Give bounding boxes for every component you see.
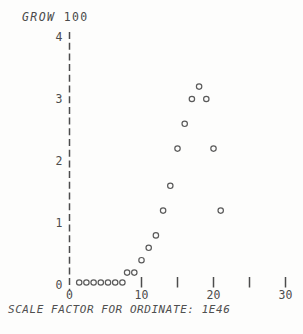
y-tick-label: 2 <box>56 154 63 168</box>
data-point <box>113 280 118 285</box>
plot-printout: GROW 100 012340102030 SCALE FACTOR FOR O… <box>0 0 303 334</box>
data-point <box>168 183 173 188</box>
data-point <box>175 146 180 151</box>
data-point <box>204 96 209 101</box>
data-point <box>84 280 89 285</box>
y-tick-label: 3 <box>56 92 63 106</box>
data-point <box>160 208 165 213</box>
data-point <box>98 280 103 285</box>
data-point <box>153 233 158 238</box>
data-point <box>218 208 223 213</box>
data-point <box>77 280 82 285</box>
data-point <box>124 270 129 275</box>
y-tick-label: 4 <box>56 30 63 44</box>
x-tick-label: 0 <box>66 288 73 302</box>
data-point <box>182 121 187 126</box>
data-point <box>132 270 137 275</box>
data-point <box>211 146 216 151</box>
data-point <box>105 280 110 285</box>
data-point <box>91 280 96 285</box>
data-point <box>120 280 125 285</box>
x-tick-label: 20 <box>207 288 221 302</box>
data-point <box>189 96 194 101</box>
x-tick-label: 10 <box>135 288 149 302</box>
plot-area: 012340102030 <box>0 0 303 334</box>
data-point <box>146 245 151 250</box>
y-tick-label: 1 <box>56 216 63 230</box>
y-tick-label: 0 <box>56 278 63 292</box>
x-tick-label: 30 <box>279 288 293 302</box>
data-point <box>139 258 144 263</box>
data-point <box>196 84 201 89</box>
scale-factor-caption: SCALE FACTOR FOR ORDINATE: 1E46 <box>8 303 230 316</box>
